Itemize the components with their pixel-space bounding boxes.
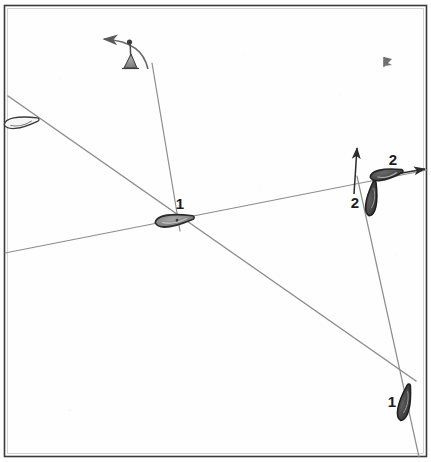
diagram-background xyxy=(0,0,431,462)
wind-indicator-knob xyxy=(127,39,132,44)
boat-label-2-lower: 2 xyxy=(351,194,359,211)
sailing-rules-diagram: 1 2 2 1 xyxy=(0,0,431,462)
boat-label-1-center: 1 xyxy=(176,195,184,212)
flag-pole xyxy=(383,57,385,67)
boat-label-2-upper: 2 xyxy=(389,151,397,168)
diagram-canvas: 1 2 2 1 xyxy=(0,0,431,462)
boat-label-1-lower: 1 xyxy=(388,393,396,410)
